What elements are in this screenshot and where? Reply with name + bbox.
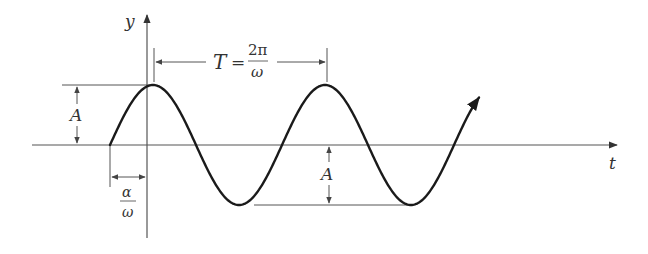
period-numerator: 2π — [248, 41, 268, 59]
phase-denominator: ω — [122, 204, 134, 220]
phase-numerator: α — [122, 184, 132, 200]
period-equals: = — [231, 52, 245, 72]
t-axis-label: t — [609, 153, 616, 173]
y-axis-label: y — [124, 11, 135, 31]
period-symbol: T — [213, 50, 228, 74]
sinusoid-diagram: A A T = 2π ω α ω y t — [0, 0, 648, 254]
period-denominator: ω — [251, 63, 263, 81]
amplitude-right-label: A — [319, 164, 333, 184]
amplitude-left-label: A — [68, 105, 82, 125]
